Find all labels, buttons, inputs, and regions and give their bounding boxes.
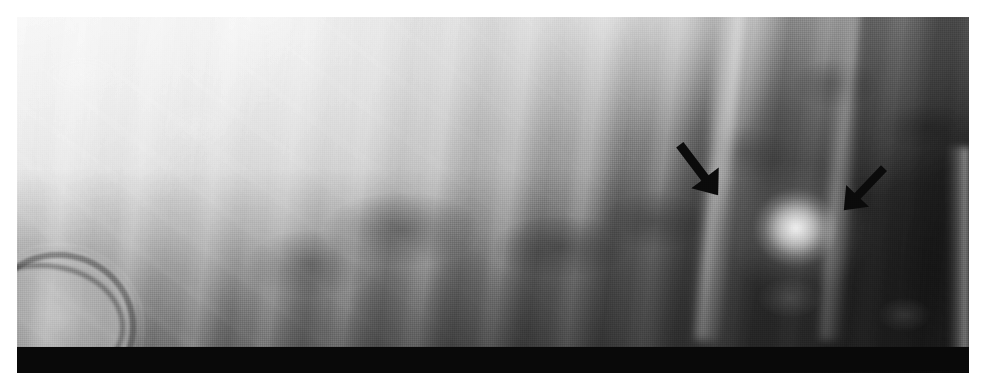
xray-base-tone-layer xyxy=(17,17,969,373)
halftone-screen-layer xyxy=(17,17,969,373)
curvilinear-lucency-arc xyxy=(17,245,143,373)
figure-root xyxy=(0,0,986,388)
curvilinear-lucency-arc-inner xyxy=(17,263,125,373)
bottom-bar-shape xyxy=(17,347,969,373)
right-edge-highlight xyxy=(947,147,969,367)
focal-opacity xyxy=(744,180,848,276)
radiograph-image xyxy=(17,17,969,373)
plate-vignette-layer xyxy=(17,17,969,373)
parenchymal-mottling-layer xyxy=(17,17,969,373)
print-grain-layer xyxy=(17,17,969,373)
diagonal-streaks-layer xyxy=(17,17,969,373)
xray-lower-shadow-layer xyxy=(17,17,969,373)
annotation-arrow-right-icon xyxy=(839,160,889,221)
rib-edge-left xyxy=(696,17,745,342)
bottom-bar-fade xyxy=(17,347,969,373)
bottom-black-bar xyxy=(17,347,969,373)
annotation-arrow-left-icon xyxy=(673,137,727,203)
rib-bands-layer xyxy=(17,17,969,373)
rib-edge-right xyxy=(820,17,859,341)
focal-opacity-halo xyxy=(697,139,895,317)
rib-bands-secondary-layer xyxy=(17,17,969,373)
